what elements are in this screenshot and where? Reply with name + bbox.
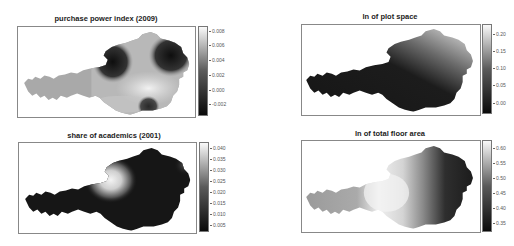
chart-title: purchase power index (2009) [55,14,158,23]
colorbar-tick: 0.10 [496,65,506,71]
colorbar-tick: 0.025 [213,178,226,184]
austria-map [302,25,480,115]
colorbar-tick: 0.35 [496,220,506,226]
austria-map [302,141,480,232]
colorbar-tick: 0.035 [213,156,226,162]
colorbar-tick: 0.030 [213,167,226,173]
colorbar [199,142,209,232]
colorbar-tick: 0.00 [496,100,506,106]
austria-map [19,143,196,233]
map-plot-area [17,26,196,118]
colorbar-tick: 0.05 [496,82,506,88]
colorbar-tick: 0.000 [212,87,225,93]
colorbar-tick: 0.020 [213,189,226,195]
colorbar-tick: -0.002 [212,101,226,107]
colorbar-tick: 0.002 [212,72,225,78]
colorbar-tick: 0.60 [496,145,506,151]
colorbar [482,24,492,114]
colorbar-tick: 0.040 [213,145,226,151]
map-plot-area [301,24,481,116]
colorbar-tick: 0.40 [496,205,506,211]
colorbar-tick: 0.008 [212,28,225,34]
colorbar [198,26,208,116]
colorbar-tick: 0.004 [212,57,225,63]
colorbar-tick: 0.015 [213,200,226,206]
colorbar-tick: 0.50 [496,175,506,181]
colorbar-tick: 0.45 [496,190,506,196]
map-plot-area [301,140,481,233]
colorbar-tick: 0.15 [496,48,506,54]
chart-title: ln of plot space [362,12,417,21]
austria-map [18,27,195,117]
chart-title: ln of total floor area [355,129,425,138]
colorbar-tick: 0.20 [496,31,506,37]
map-plot-area [18,142,197,234]
colorbar-tick: 0.005 [213,222,226,228]
colorbar [482,140,492,232]
chart-title: share of academics (2001) [67,131,160,140]
colorbar-tick: 0.006 [212,42,225,48]
colorbar-tick: 0.010 [213,211,226,217]
colorbar-tick: 0.55 [496,160,506,166]
